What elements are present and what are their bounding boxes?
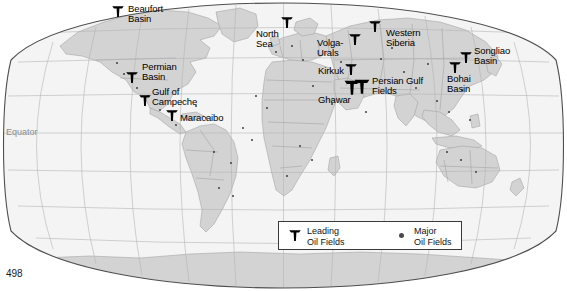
map-legend: Leading Oil Fields Major Oil Fields (278, 221, 462, 250)
map-label-volga-urals: Volga- Urals (317, 38, 343, 58)
map-label-gulf-of-campeche: Gulf of Campeche (152, 87, 197, 107)
legend-label-major-oil-fields: Major Oil Fields (414, 226, 452, 247)
map-label-kirkuk: Kirkuk (318, 66, 344, 76)
page-root: Equator Beaufort BasinPermian BasinGulf … (0, 0, 567, 291)
derrick-icon (344, 62, 358, 76)
derrick-icon (138, 93, 152, 107)
map-label-north-sea: North Sea (256, 29, 279, 49)
map-label-beaufort-basin: Beaufort Basin (128, 4, 163, 24)
map-label-western-siberia: Western Siberia (386, 28, 421, 48)
legend-label-leading-oil-fields: Leading Oil Fields (307, 226, 345, 247)
map-label-persian-gulf: Persian Gulf Fields (372, 76, 423, 96)
world-oil-fields-map: Equator Beaufort BasinPermian BasinGulf … (0, 0, 567, 291)
legend-derrick-icon (288, 228, 302, 242)
map-label-bohai-basin: Bohai Basin (447, 74, 471, 94)
derrick-icon (111, 4, 125, 18)
map-label-ghawar: Ghawar (318, 95, 351, 105)
legend-dot-icon (399, 233, 404, 238)
land-philippines (470, 114, 480, 128)
derrick-icon (448, 60, 462, 74)
map-label-songliao-basin: Songliao Basin (474, 46, 510, 66)
map-label-permian-basin: Permian Basin (142, 62, 177, 82)
derrick-icon (348, 32, 362, 46)
derrick-icon (368, 19, 382, 33)
derrick-icon (125, 70, 139, 84)
map-label-maracaibo: Maracaibo (180, 113, 223, 123)
derrick-icon (165, 108, 179, 122)
page-number: 498 (6, 268, 23, 279)
equator-label: Equator (6, 127, 38, 137)
derrick-icon (280, 15, 294, 29)
